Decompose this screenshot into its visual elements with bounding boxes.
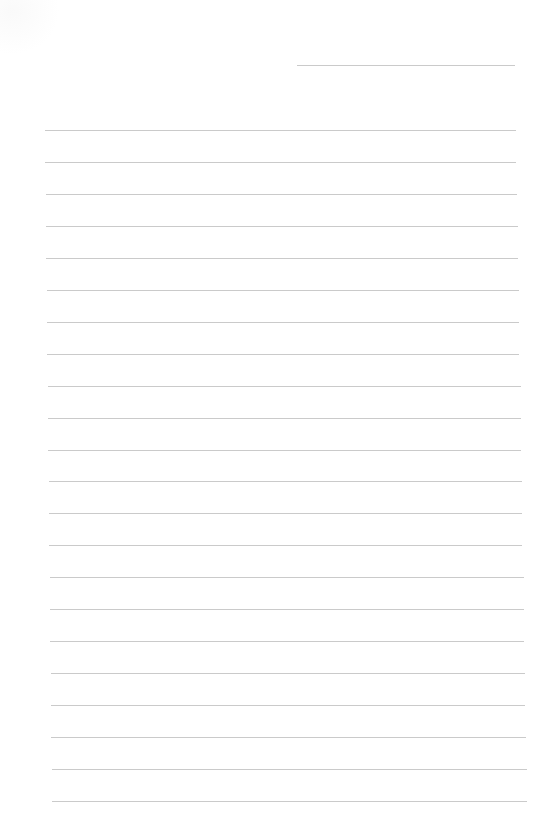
ruled-line [47,322,519,323]
ruled-line [47,354,519,355]
ruled-line [48,450,521,451]
ruled-line [50,641,524,642]
lined-paper-page [0,0,535,831]
ruled-line [50,609,524,610]
ruled-line [50,577,524,578]
ruled-line [46,258,518,259]
ruled-line [47,290,519,291]
ruled-line [49,513,522,514]
ruled-line [45,162,516,163]
ruled-line [49,545,522,546]
ruled-line [52,769,527,770]
ruled-line [49,481,522,482]
ruled-line [46,194,517,195]
ruled-line [48,386,521,387]
ruled-line [51,737,526,738]
ruled-line [51,705,525,706]
ruled-line [48,418,521,419]
header-date-line [297,65,515,66]
ruled-line [46,226,518,227]
ruled-line [52,801,527,802]
ruled-line [51,673,525,674]
paper-texture [0,0,60,55]
ruled-line [45,130,516,131]
